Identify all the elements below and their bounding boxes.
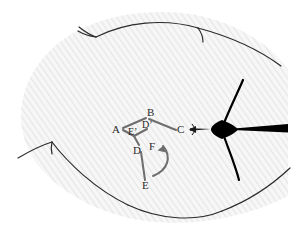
vertex-label-e-prime: E’ xyxy=(128,126,137,137)
hatched-region xyxy=(21,12,288,223)
vertex-label-f: F xyxy=(149,141,155,152)
vertex-label-c: C xyxy=(177,124,184,135)
vertex-label-b: B xyxy=(147,107,154,118)
vertex-label-a: A xyxy=(112,124,120,135)
vertex-label-e: E xyxy=(142,180,149,191)
figure-container: A B C D E F D’ E’ xyxy=(0,0,301,235)
vertex-label-d: D xyxy=(133,145,141,156)
vertex-label-d-prime: D’ xyxy=(142,119,153,130)
